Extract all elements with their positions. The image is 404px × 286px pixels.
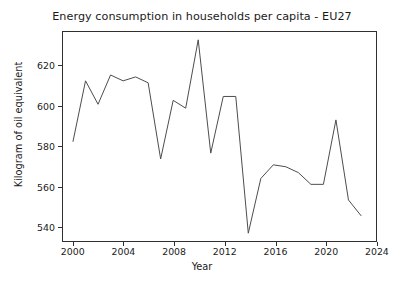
chart-figure: Energy consumption in households per cap… bbox=[0, 0, 404, 286]
chart-title: Energy consumption in households per cap… bbox=[0, 10, 404, 23]
x-tick-2008: 2008 bbox=[162, 246, 186, 257]
x-tick-2000: 2000 bbox=[61, 246, 85, 257]
y-tick-560: 560 bbox=[37, 181, 55, 192]
y-tick-580: 580 bbox=[37, 141, 55, 152]
x-tick-2024: 2024 bbox=[365, 246, 389, 257]
y-axis-tick-labels: 620 600 580 560 540 bbox=[22, 0, 55, 286]
data-series-line bbox=[63, 32, 376, 241]
series-polyline bbox=[73, 40, 361, 233]
x-tick-2004: 2004 bbox=[111, 246, 135, 257]
x-tick-2020: 2020 bbox=[314, 246, 338, 257]
plot-area bbox=[62, 31, 377, 242]
y-tick-600: 600 bbox=[37, 100, 55, 111]
y-tick-540: 540 bbox=[37, 222, 55, 233]
y-tick-620: 620 bbox=[37, 60, 55, 71]
x-axis-label: Year bbox=[0, 261, 404, 272]
x-tick-2012: 2012 bbox=[213, 246, 237, 257]
x-tick-2016: 2016 bbox=[264, 246, 288, 257]
